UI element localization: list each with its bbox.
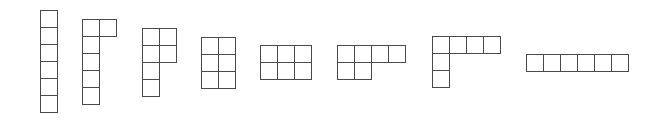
square-cell (159, 28, 177, 46)
square-cell (277, 62, 295, 80)
square-cell (577, 54, 595, 72)
square-cell (218, 54, 236, 72)
square-cell (99, 19, 117, 37)
square-cell (432, 36, 450, 54)
square-cell (260, 45, 278, 63)
square-cell (294, 45, 312, 63)
square-cell (526, 54, 544, 72)
square-cell (388, 45, 406, 63)
square-cell (354, 45, 372, 63)
square-cell (40, 44, 58, 62)
square-cell (40, 95, 58, 113)
square-cell (201, 37, 219, 55)
square-cell (40, 78, 58, 96)
square-cell (449, 36, 467, 54)
square-cell (82, 53, 100, 71)
square-cell (201, 54, 219, 72)
square-cell (371, 45, 389, 63)
square-cell (142, 62, 160, 80)
square-cell (432, 70, 450, 88)
square-cell (40, 61, 58, 79)
square-cell (260, 62, 278, 80)
square-cell (432, 53, 450, 71)
square-cell (337, 62, 355, 80)
square-cell (82, 70, 100, 88)
square-cell (466, 36, 484, 54)
square-cell (294, 62, 312, 80)
square-cell (483, 36, 501, 54)
square-cell (142, 45, 160, 63)
square-cell (201, 71, 219, 89)
square-cell (354, 62, 372, 80)
square-cell (218, 37, 236, 55)
square-cell (142, 28, 160, 46)
square-cell (218, 71, 236, 89)
square-cell (82, 19, 100, 37)
square-cell (159, 45, 177, 63)
square-cell (277, 45, 295, 63)
square-cell (611, 54, 629, 72)
square-cell (560, 54, 578, 72)
square-cell (82, 36, 100, 54)
square-cell (40, 27, 58, 45)
square-cell (594, 54, 612, 72)
square-cell (142, 79, 160, 97)
square-cell (82, 87, 100, 105)
square-cell (337, 45, 355, 63)
square-cell (40, 10, 58, 28)
square-cell (543, 54, 561, 72)
